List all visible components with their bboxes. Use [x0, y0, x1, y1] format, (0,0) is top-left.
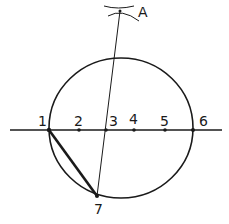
- points: [47, 10, 195, 199]
- label-point-a: A: [138, 4, 148, 20]
- label-point-2: 2: [74, 113, 83, 129]
- label-point-6: 6: [199, 113, 208, 129]
- construction-line-a-to-7: [97, 11, 120, 196]
- circle: [49, 58, 193, 198]
- geometric-construction-diagram: 1 2 3 4 5 6 7 A: [0, 0, 229, 224]
- label-point-1: 1: [38, 113, 47, 129]
- label-point-7: 7: [94, 201, 103, 217]
- chord-1-to-7: [49, 130, 97, 196]
- label-point-3: 3: [109, 113, 118, 129]
- label-point-5: 5: [160, 113, 169, 129]
- arc-intersection-a: [104, 6, 139, 21]
- label-point-4: 4: [129, 111, 138, 127]
